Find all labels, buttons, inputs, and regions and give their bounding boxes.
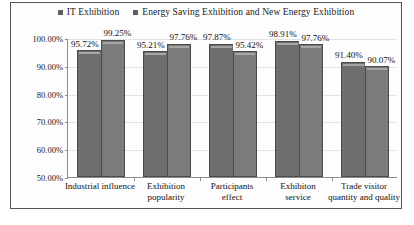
- bar-value-label: 97.76%: [170, 32, 198, 42]
- bar-value-label: 97.76%: [302, 33, 330, 43]
- legend-label-series-0: IT Exhibition: [67, 7, 120, 17]
- bar-value-label: 99.25%: [104, 28, 132, 38]
- bar-value-label: 95.42%: [236, 40, 264, 50]
- y-axis-tick-label: 100.00%: [33, 34, 63, 44]
- chart-frame: IT Exhibition Energy Saving Exhibition a…: [10, 2, 402, 209]
- bar-top-highlight: [301, 46, 321, 48]
- y-axis-tick-label: 60.00%: [37, 145, 63, 155]
- plot-area: 100.00%90.00%80.00%70.00%60.00%50.00%95.…: [67, 39, 397, 178]
- bar-value-label: 98.91%: [269, 29, 297, 39]
- chart-legend: IT Exhibition Energy Saving Exhibition a…: [11, 7, 401, 17]
- bar-group: 98.91%97.76%: [266, 39, 332, 177]
- x-axis-category-label: Trade visitorquantity and quality: [325, 181, 403, 202]
- y-axis-tick-label: 70.00%: [37, 117, 63, 127]
- legend-swatch-icon: [58, 10, 63, 15]
- legend-label-series-1: Energy Saving Exhibition and New Energy …: [142, 7, 354, 17]
- bar-series-0: 95.21%: [143, 51, 167, 177]
- bar-top-highlight: [211, 46, 232, 48]
- bar-value-label: 91.40%: [335, 50, 363, 60]
- bar-series-1: 90.07%: [365, 66, 389, 177]
- bar-value-label: 90.07%: [368, 55, 396, 65]
- y-axis-tick-label: 90.00%: [37, 62, 63, 72]
- bar-series-1: 97.76%: [299, 44, 323, 177]
- bar-series-0: 98.91%: [275, 41, 299, 177]
- bar-top-highlight: [79, 52, 100, 54]
- bar-top-highlight: [103, 42, 123, 44]
- bar-value-label: 97.87%: [203, 32, 231, 42]
- bar-series-1: 99.25%: [101, 40, 125, 177]
- legend-swatch-icon: [133, 10, 138, 15]
- bar-series-1: 97.76%: [167, 44, 191, 177]
- bar-series-0: 95.72%: [77, 50, 101, 177]
- x-axis-label-line: quantity and quality: [325, 192, 403, 203]
- x-axis-label-line: Trade visitor: [325, 181, 403, 192]
- bar-top-highlight: [169, 46, 189, 48]
- bar-group: 95.21%97.76%: [134, 39, 200, 177]
- y-axis-tick-label: 50.00%: [37, 173, 63, 183]
- bar-top-highlight: [343, 64, 364, 66]
- bar-top-highlight: [235, 53, 255, 55]
- legend-entry-it-exhibition: IT Exhibition: [58, 7, 120, 17]
- bar-value-label: 95.72%: [71, 39, 99, 49]
- bar-top-highlight: [367, 68, 387, 70]
- bar-value-label: 95.21%: [137, 40, 165, 50]
- bar-top-highlight: [277, 43, 298, 45]
- bar-group: 91.40%90.07%: [332, 39, 398, 177]
- bar-series-0: 91.40%: [341, 62, 365, 177]
- bar-series-0: 97.87%: [209, 44, 233, 177]
- y-axis-tick: [65, 178, 68, 179]
- bar-series-1: 95.42%: [233, 51, 257, 177]
- y-axis-tick-label: 80.00%: [37, 90, 63, 100]
- bar-top-highlight: [145, 53, 166, 55]
- bar-group: 95.72%99.25%: [68, 39, 134, 177]
- bar-group: 97.87%95.42%: [200, 39, 266, 177]
- legend-entry-energy-exhibition: Energy Saving Exhibition and New Energy …: [133, 7, 354, 17]
